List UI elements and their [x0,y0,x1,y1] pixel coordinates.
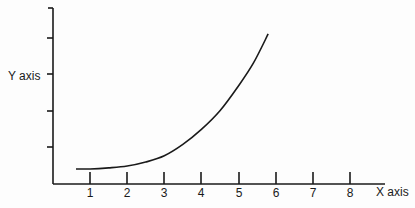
axes [47,8,385,184]
x-tick-label: 5 [236,187,243,199]
x-tick-label: 4 [198,187,205,199]
chart-canvas [0,0,415,208]
y-axis-label: Y axis [8,70,40,82]
x-tick-label: 1 [87,187,94,199]
data-curve [76,34,268,169]
x-axis-label: X axis [376,186,409,198]
x-tick-label: 2 [124,187,131,199]
x-tick-label: 6 [273,187,280,199]
x-tick-label: 8 [347,187,354,199]
x-tick-label: 3 [161,187,168,199]
x-tick-label: 7 [310,187,317,199]
